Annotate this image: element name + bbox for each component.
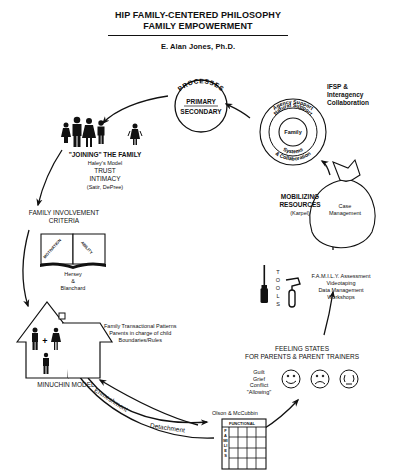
tools-label: TOOLS bbox=[275, 268, 281, 308]
house-icon: + bbox=[17, 302, 112, 378]
involvement-text: FAMILY INVOLVEMENT CRITERIA bbox=[14, 209, 114, 225]
bag-line-1: Case bbox=[320, 203, 370, 210]
note-transactional: Family Transactional Patterns bbox=[104, 323, 176, 330]
hersey-credit: Hersey & Blanchard bbox=[43, 271, 103, 292]
screwdriver-icon bbox=[261, 265, 269, 303]
joining-title: "JOINING" THE FAMILY bbox=[55, 151, 155, 159]
mobilizing-line-1: MOBILIZING bbox=[275, 193, 325, 201]
note-parents: Parents in charge of child bbox=[104, 330, 176, 337]
wrench-icon bbox=[286, 278, 300, 307]
minuchin-notes: Family Transactional Patterns Parents in… bbox=[104, 323, 176, 344]
joining-trust: TRUST bbox=[55, 167, 155, 175]
joining-intimacy: INTIMACY bbox=[55, 175, 155, 183]
ifsp-line-1: IFSP & bbox=[327, 83, 369, 91]
family-center-label: Family bbox=[278, 129, 308, 137]
case-management: Case Management bbox=[320, 203, 370, 217]
tool-assessment: F.A.M.I.L.Y. Assessment bbox=[305, 273, 377, 280]
olson-label: Olson & McCubbin bbox=[212, 410, 258, 418]
feeling-states-title: FEELING STATES FOR PARENTS & PARENT TRAI… bbox=[232, 345, 372, 361]
credit-blanchard: Blanchard bbox=[43, 285, 103, 292]
feeling-items: Guilt Grief Conflict "Allowing" bbox=[238, 369, 280, 395]
svg-text:+: + bbox=[42, 336, 47, 346]
grid-header: FUNCTIONAL bbox=[229, 420, 255, 428]
mobilizing-line-2: RESOURCES bbox=[275, 201, 325, 209]
grid-side: FAMILIES bbox=[223, 428, 228, 458]
ifsp-label: IFSP & Interagency Collaboration bbox=[327, 83, 369, 107]
tool-workshops: Workshops bbox=[305, 294, 377, 301]
credit-hersey: Hersey bbox=[43, 271, 103, 278]
feeling-line-1: FEELING STATES bbox=[232, 345, 372, 353]
feeling-allowing: "Allowing" bbox=[238, 389, 280, 396]
joining-model: Haley's Model bbox=[55, 159, 155, 167]
smiley-face-icon bbox=[282, 370, 300, 388]
sad-face-icon bbox=[311, 370, 329, 388]
tool-videotaping: Videotaping bbox=[305, 280, 377, 287]
mobilizing-text: MOBILIZING RESOURCES (Karpel) bbox=[275, 193, 325, 217]
involvement-criteria: CRITERIA bbox=[14, 217, 114, 225]
feeling-line-2: FOR PARENTS & PARENT TRAINERS bbox=[232, 353, 372, 361]
mobilizing-credit: (Karpel) bbox=[275, 209, 325, 217]
tool-data-management: Data Management bbox=[305, 287, 377, 294]
processes-primary: PRIMARY bbox=[181, 98, 221, 106]
involvement-title: FAMILY INVOLVEMENT bbox=[14, 209, 114, 217]
processes-secondary: SECONDARY bbox=[178, 108, 224, 116]
note-boundaries: Boundaries/Rules bbox=[104, 337, 176, 344]
diagram-graphics: + bbox=[0, 0, 396, 473]
tools-list: F.A.M.I.L.Y. Assessment Videotaping Data… bbox=[305, 273, 377, 301]
joining-text: "JOINING" THE FAMILY Haley's Model TRUST… bbox=[55, 151, 155, 191]
ifsp-line-2: Interagency bbox=[327, 91, 369, 99]
bag-line-2: Management bbox=[320, 210, 370, 217]
joining-credit: (Satir, DePree) bbox=[55, 183, 155, 191]
credit-and: & bbox=[43, 278, 103, 285]
ifsp-line-3: Collaboration bbox=[327, 99, 369, 107]
neutral-face-icon bbox=[340, 370, 358, 388]
family-figures bbox=[61, 117, 142, 147]
